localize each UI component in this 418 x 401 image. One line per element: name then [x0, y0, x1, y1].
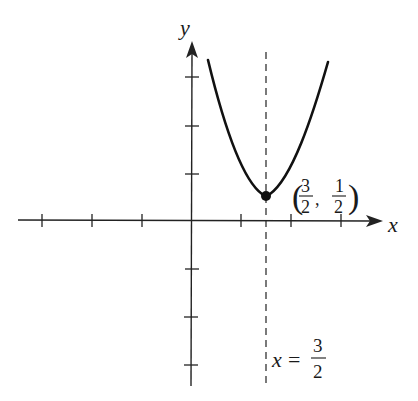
vertex-point [261, 191, 271, 201]
symmetry-axis-equals: = [288, 347, 300, 372]
vertex-y-numerator: 1 [335, 176, 344, 196]
symmetry-axis-numerator: 3 [313, 335, 323, 356]
x-axis-label: x [387, 212, 398, 237]
vertex-close-paren: ) [348, 178, 359, 216]
vertex-label: ( 3 2 , 1 2 ) [292, 176, 359, 217]
symmetry-axis-var: x [271, 347, 282, 372]
y-axis-label: y [178, 15, 190, 40]
vertex-y-denominator: 2 [334, 197, 343, 217]
vertex-x-denominator: 2 [301, 197, 310, 217]
vertex-comma: , [315, 189, 320, 209]
parabola-curve [208, 60, 328, 196]
vertex-x-numerator: 3 [301, 176, 310, 196]
chart-canvas: y x ( 3 2 , 1 2 ) x = 3 2 [0, 0, 418, 401]
x-axis [18, 220, 372, 221]
symmetry-axis-label: x = 3 2 [271, 335, 326, 382]
symmetry-axis-denominator: 2 [313, 361, 323, 382]
y-axis [191, 52, 192, 386]
